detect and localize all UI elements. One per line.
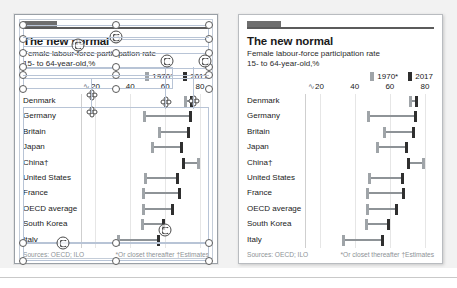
range-connector [143,208,172,210]
axis-tick-label: 60 [385,82,394,91]
axis-tick-label: 80 [421,82,430,91]
marker-2017[interactable] [407,158,410,169]
marker-2017[interactable] [187,127,190,138]
marker-2017[interactable] [189,111,192,122]
legend-label-1970: 1970* [152,72,173,81]
marker-2017[interactable] [190,96,193,107]
table-row[interactable]: China† [247,156,434,171]
row-label-country: Denmark [23,96,55,105]
marker-2017[interactable] [162,219,165,230]
marker-2017[interactable] [415,96,418,107]
marker-1970[interactable] [184,96,187,107]
table-row[interactable]: OECD average [23,202,209,217]
marker-1970[interactable] [422,158,425,169]
marker-1970[interactable] [143,111,146,122]
table-row[interactable]: Japan [247,140,434,155]
marker-2017[interactable] [180,142,183,153]
marker-2017[interactable] [157,235,160,246]
range-connector [343,239,383,241]
axis-break-icon: ∿ [308,82,315,91]
legend-item-2017[interactable]: 2017 [183,72,208,81]
page-title: The new normal [23,34,209,48]
marker-2017[interactable] [405,142,408,153]
marker-1970[interactable] [142,188,145,199]
marker-1970[interactable] [342,235,345,246]
marker-1970[interactable] [365,219,368,230]
range-connector [144,115,190,117]
axis-break-icon: ∿ [83,82,90,91]
axis-tick-label: 60 [161,82,170,91]
marker-1970[interactable] [366,188,369,199]
table-row[interactable]: France [247,186,434,201]
marker-2017[interactable] [395,204,398,215]
legend: 1970* 2017 [23,72,209,81]
marker-1970[interactable] [376,142,379,153]
row-label-country: South Korea [23,219,67,228]
table-row[interactable]: Denmark [247,94,434,109]
x-axis-preview: ∿20406080 [247,82,434,94]
table-row[interactable]: Japan [23,140,209,155]
marker-1970[interactable] [141,219,144,230]
marker-1970[interactable] [197,158,200,169]
subtitle-line-2: 15- to 64-year-old,% [23,59,209,69]
row-label-country: China† [23,158,48,167]
footnote-dagger-preview: †Estimates [401,251,434,258]
marker-2017[interactable] [412,127,415,138]
range-connector [370,177,403,179]
row-label-country: Britain [247,127,270,136]
marker-2017[interactable] [178,188,181,199]
marker-1970[interactable] [142,204,145,215]
marker-1970[interactable] [368,173,371,184]
preview-canvas[interactable]: The new normal Female labour-force parti… [238,14,443,264]
range-connector [385,131,414,133]
marker-2017[interactable] [414,111,417,122]
table-row[interactable]: Britain [247,125,434,140]
table-row[interactable]: Denmark [23,94,209,109]
legend-item-1970[interactable]: 1970* [145,72,173,81]
footnote-dagger: †Estimates [176,251,209,258]
legend-item-2017-preview[interactable]: 2017 [408,72,433,81]
table-row[interactable]: China† [23,156,209,171]
table-row[interactable]: United States [247,171,434,186]
marker-1970[interactable] [383,127,386,138]
marker-1970[interactable] [158,127,161,138]
footnotes-preview: *Or closet thereafter †Estimates [341,251,434,258]
table-row[interactable]: Italy [23,233,209,248]
legend-item-1970-preview[interactable]: 1970* [370,72,398,81]
sources-text: Sources: OECD; ILO [23,251,84,258]
marker-1970[interactable] [144,173,147,184]
design-canvas[interactable]: The new normal Female labour-force parti… [14,14,218,264]
table-row[interactable]: France [23,186,209,201]
table-row[interactable]: South Korea [247,217,434,232]
table-row[interactable]: Italy [247,233,434,248]
footnotes: *Or closet thereafter †Estimates [116,251,209,258]
row-label-country: Germany [247,111,280,120]
marker-1970[interactable] [117,235,120,246]
marker-1970[interactable] [367,111,370,122]
lower-strip [0,268,457,288]
marker-2017[interactable] [182,158,185,169]
table-row[interactable]: Britain [23,125,209,140]
range-connector [369,115,416,117]
table-row[interactable]: South Korea [23,217,209,232]
range-connector [160,131,189,133]
row-label-country: OECD average [23,204,77,213]
sources-text-preview: Sources: OECD; ILO [247,251,308,258]
marker-2017[interactable] [402,188,405,199]
table-row[interactable]: United States [23,171,209,186]
table-row[interactable]: OECD average [247,202,434,217]
marker-2017[interactable] [401,173,404,184]
table-row[interactable]: Germany [23,109,209,124]
marker-2017[interactable] [381,235,384,246]
marker-2017[interactable] [171,204,174,215]
marker-1970[interactable] [151,142,154,153]
marker-2017[interactable] [387,219,390,230]
range-connector [153,146,182,148]
axis-tick-label: 40 [126,82,135,91]
plot-area: ∿20406080 DenmarkGermanyBritainJapanChin… [23,82,209,248]
table-row[interactable]: Germany [247,109,434,124]
marker-1970[interactable] [366,204,369,215]
marker-2017[interactable] [176,173,179,184]
marker-1970[interactable] [409,96,412,107]
row-label-country: Italy [247,235,262,244]
